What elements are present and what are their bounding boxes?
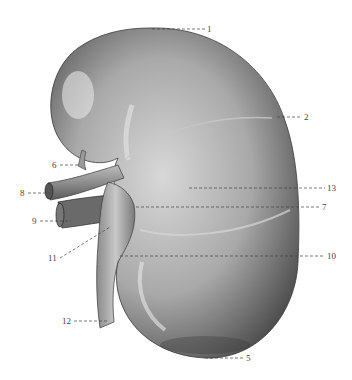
label-13: 13 — [327, 183, 336, 193]
kidney-illustration — [0, 0, 352, 380]
label-1: 1 — [207, 24, 212, 34]
label-9: 9 — [32, 216, 37, 226]
label-11: 11 — [48, 253, 57, 263]
label-8: 8 — [20, 188, 25, 198]
label-5: 5 — [246, 353, 251, 363]
kidney-diagram: 1 2 13 7 10 5 6 8 9 11 12 — [0, 0, 352, 380]
label-2: 2 — [304, 112, 309, 122]
label-12: 12 — [62, 316, 71, 326]
label-6: 6 — [52, 160, 57, 170]
label-10: 10 — [327, 251, 336, 261]
label-7: 7 — [322, 202, 327, 212]
